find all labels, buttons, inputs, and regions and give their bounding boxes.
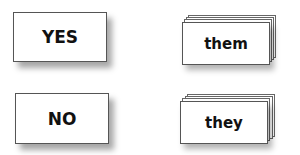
- yes-card: YES: [13, 12, 107, 62]
- them-card: them: [182, 22, 270, 65]
- them-card-stack: them: [182, 15, 282, 70]
- no-card: NO: [15, 93, 109, 144]
- they-card: they: [180, 101, 268, 144]
- yes-label: YES: [42, 27, 78, 47]
- they-label: they: [205, 114, 243, 132]
- them-label: them: [204, 35, 248, 53]
- they-card-stack: they: [180, 94, 280, 149]
- no-label: NO: [48, 109, 77, 129]
